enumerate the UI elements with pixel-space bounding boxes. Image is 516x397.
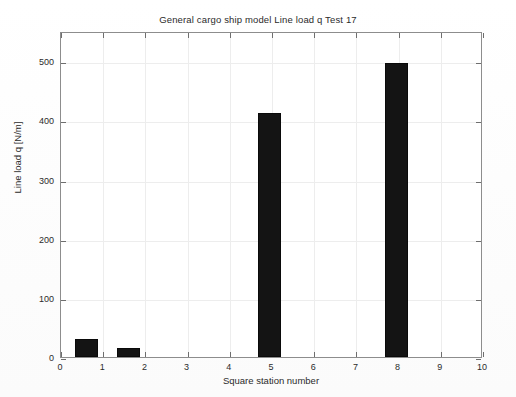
figure-canvas: General cargo ship model Line load q Tes… <box>0 0 516 397</box>
y-axis-tick-label: 0 <box>49 353 54 363</box>
chart-title: General cargo ship model Line load q Tes… <box>0 14 516 25</box>
y-axis-label: Line load q [N/m] <box>12 98 23 218</box>
bar-series <box>61 33 481 357</box>
x-axis-tick-label: 3 <box>184 362 189 372</box>
x-axis-tick-label: 7 <box>353 362 358 372</box>
bar <box>117 348 140 357</box>
y-axis-tick-label: 300 <box>39 176 54 186</box>
x-axis-tick-label: 1 <box>100 362 105 372</box>
bar <box>75 339 98 357</box>
x-axis-tick-label: 0 <box>57 362 62 372</box>
x-axis-tick-label: 6 <box>311 362 316 372</box>
y-axis-tick <box>476 359 481 360</box>
x-axis-tick-label: 4 <box>226 362 231 372</box>
bar <box>258 113 281 357</box>
y-axis-tick <box>61 359 66 360</box>
bar <box>385 63 408 357</box>
y-axis-tick-labels: 0100200300400500 <box>0 32 54 358</box>
x-axis-tick-label: 8 <box>395 362 400 372</box>
x-axis-tick <box>483 352 484 357</box>
x-axis-tick-label: 9 <box>437 362 442 372</box>
x-axis-tick-label: 5 <box>268 362 273 372</box>
y-axis-tick-label: 400 <box>39 116 54 126</box>
y-axis-tick-label: 100 <box>39 294 54 304</box>
x-axis-tick-label: 10 <box>477 362 487 372</box>
plot-area <box>60 32 482 358</box>
x-axis-tick <box>483 33 484 38</box>
x-axis-label: Square station number <box>60 375 482 386</box>
y-axis-tick-label: 200 <box>39 235 54 245</box>
x-axis-tick-label: 2 <box>142 362 147 372</box>
y-axis-tick-label: 500 <box>39 57 54 67</box>
